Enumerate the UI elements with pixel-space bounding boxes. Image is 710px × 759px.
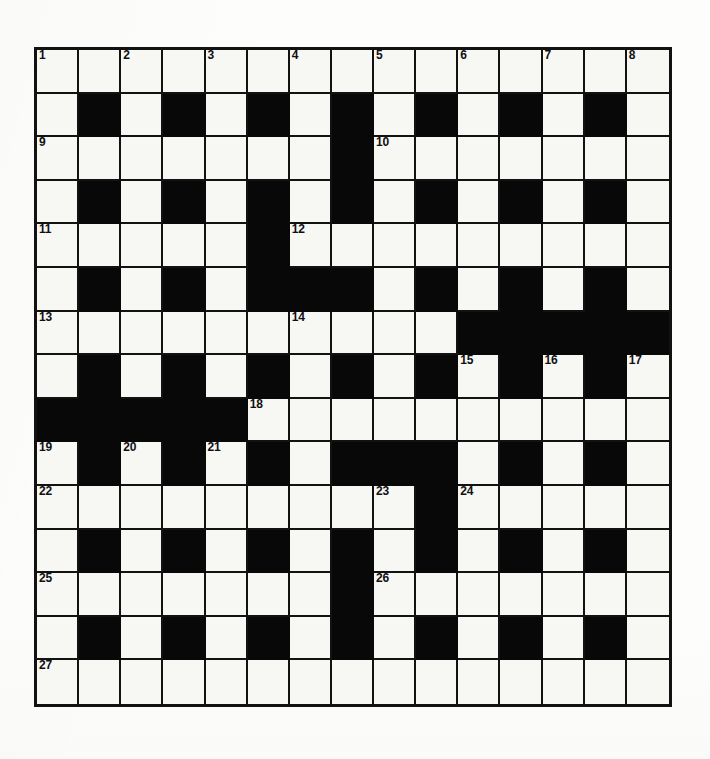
letter-square[interactable] (627, 137, 669, 181)
letter-square[interactable]: 3 (206, 50, 248, 94)
letter-square[interactable] (543, 442, 585, 486)
letter-square[interactable] (500, 486, 542, 530)
letter-square[interactable] (458, 181, 500, 225)
letter-square[interactable] (332, 50, 374, 94)
letter-square[interactable] (543, 530, 585, 574)
letter-square[interactable] (290, 137, 332, 181)
letter-square[interactable] (206, 94, 248, 138)
letter-square[interactable] (206, 137, 248, 181)
letter-square[interactable] (627, 181, 669, 225)
letter-square[interactable] (543, 137, 585, 181)
letter-square[interactable] (374, 530, 416, 574)
letter-square[interactable] (290, 94, 332, 138)
letter-square[interactable] (248, 573, 290, 617)
letter-square[interactable]: 14 (290, 312, 332, 356)
letter-square[interactable] (585, 137, 627, 181)
letter-square[interactable] (121, 268, 163, 312)
letter-square[interactable] (290, 573, 332, 617)
letter-square[interactable] (543, 399, 585, 443)
letter-square[interactable] (458, 399, 500, 443)
letter-square[interactable] (163, 660, 205, 704)
letter-square[interactable] (627, 530, 669, 574)
letter-square[interactable] (585, 573, 627, 617)
letter-square[interactable] (374, 224, 416, 268)
letter-square[interactable] (37, 181, 79, 225)
letter-square[interactable] (374, 355, 416, 399)
letter-square[interactable]: 25 (37, 573, 79, 617)
letter-square[interactable] (248, 312, 290, 356)
letter-square[interactable] (585, 50, 627, 94)
letter-square[interactable] (79, 137, 121, 181)
letter-square[interactable]: 5 (374, 50, 416, 94)
letter-square[interactable] (206, 224, 248, 268)
letter-square[interactable] (416, 224, 458, 268)
letter-square[interactable]: 20 (121, 442, 163, 486)
letter-square[interactable] (416, 399, 458, 443)
letter-square[interactable]: 2 (121, 50, 163, 94)
letter-square[interactable] (332, 660, 374, 704)
letter-square[interactable] (37, 268, 79, 312)
letter-square[interactable] (79, 660, 121, 704)
letter-square[interactable] (290, 355, 332, 399)
letter-square[interactable]: 18 (248, 399, 290, 443)
letter-square[interactable] (37, 94, 79, 138)
letter-square[interactable] (627, 94, 669, 138)
letter-square[interactable] (121, 355, 163, 399)
letter-square[interactable] (37, 530, 79, 574)
letter-square[interactable] (163, 137, 205, 181)
letter-square[interactable] (416, 660, 458, 704)
letter-square[interactable] (79, 312, 121, 356)
letter-square[interactable] (121, 137, 163, 181)
letter-square[interactable] (248, 660, 290, 704)
letter-square[interactable]: 26 (374, 573, 416, 617)
letter-square[interactable] (458, 137, 500, 181)
letter-square[interactable] (121, 617, 163, 661)
letter-square[interactable] (627, 224, 669, 268)
letter-square[interactable] (248, 137, 290, 181)
letter-square[interactable] (627, 660, 669, 704)
letter-square[interactable] (248, 50, 290, 94)
letter-square[interactable] (121, 530, 163, 574)
letter-square[interactable] (543, 94, 585, 138)
letter-square[interactable] (500, 224, 542, 268)
letter-square[interactable] (163, 224, 205, 268)
letter-square[interactable] (290, 399, 332, 443)
letter-square[interactable] (37, 355, 79, 399)
letter-square[interactable] (332, 224, 374, 268)
letter-square[interactable]: 6 (458, 50, 500, 94)
letter-square[interactable] (206, 355, 248, 399)
letter-square[interactable] (543, 573, 585, 617)
letter-square[interactable] (458, 94, 500, 138)
letter-square[interactable] (121, 312, 163, 356)
letter-square[interactable] (163, 573, 205, 617)
letter-square[interactable] (206, 530, 248, 574)
letter-square[interactable] (458, 530, 500, 574)
letter-square[interactable] (416, 137, 458, 181)
letter-square[interactable] (585, 224, 627, 268)
letter-square[interactable] (627, 442, 669, 486)
letter-square[interactable] (627, 268, 669, 312)
letter-square[interactable] (374, 399, 416, 443)
letter-square[interactable] (458, 442, 500, 486)
letter-square[interactable]: 21 (206, 442, 248, 486)
letter-square[interactable] (121, 573, 163, 617)
letter-square[interactable] (374, 94, 416, 138)
letter-square[interactable] (121, 486, 163, 530)
letter-square[interactable] (374, 312, 416, 356)
letter-square[interactable] (416, 312, 458, 356)
letter-square[interactable] (163, 486, 205, 530)
letter-square[interactable] (206, 573, 248, 617)
letter-square[interactable]: 12 (290, 224, 332, 268)
letter-square[interactable] (163, 50, 205, 94)
letter-square[interactable] (374, 660, 416, 704)
letter-square[interactable] (206, 617, 248, 661)
letter-square[interactable] (290, 660, 332, 704)
letter-square[interactable] (374, 268, 416, 312)
letter-square[interactable] (458, 224, 500, 268)
letter-square[interactable] (290, 486, 332, 530)
letter-square[interactable] (37, 617, 79, 661)
letter-square[interactable] (627, 399, 669, 443)
letter-square[interactable]: 23 (374, 486, 416, 530)
letter-square[interactable] (206, 486, 248, 530)
letter-square[interactable]: 19 (37, 442, 79, 486)
